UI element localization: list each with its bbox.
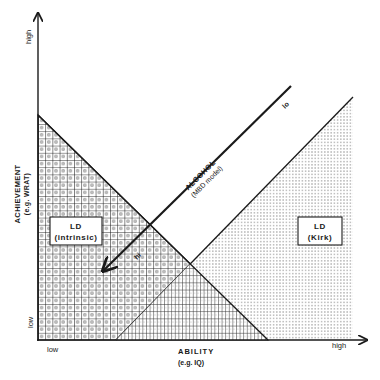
alcohol-lo-label: lo (281, 100, 290, 109)
ld-kirk-title: LD (314, 222, 326, 231)
x-axis-title: ABILITY (178, 347, 214, 356)
y-axis-high-label: high (24, 30, 33, 44)
ld-intrinsic-title: LD (70, 222, 82, 231)
y-axis-low-label: low (26, 316, 35, 328)
y-axis-subtitle: (e.g. WRAT) (23, 173, 31, 215)
x-axis-subtitle: (e.g. IQ) (178, 359, 204, 367)
x-axis-low-label: low (47, 345, 59, 354)
y-axis-title: ACHIEVEMENT (13, 164, 22, 223)
ld-kirk-subtitle: (Kirk) (308, 233, 333, 242)
alcohol-label-group: ALCOHOL (MBD model) (182, 157, 224, 199)
ld-intrinsic-subtitle: (intrinsic) (54, 233, 97, 242)
ld-intrinsic-box: LD (intrinsic) (50, 217, 102, 245)
x-axis-high-label: high (332, 341, 346, 350)
ld-kirk-box: LD (Kirk) (298, 217, 342, 245)
diagram-canvas: high low low high ACHIEVEMENT (e.g. WRAT… (0, 0, 380, 380)
